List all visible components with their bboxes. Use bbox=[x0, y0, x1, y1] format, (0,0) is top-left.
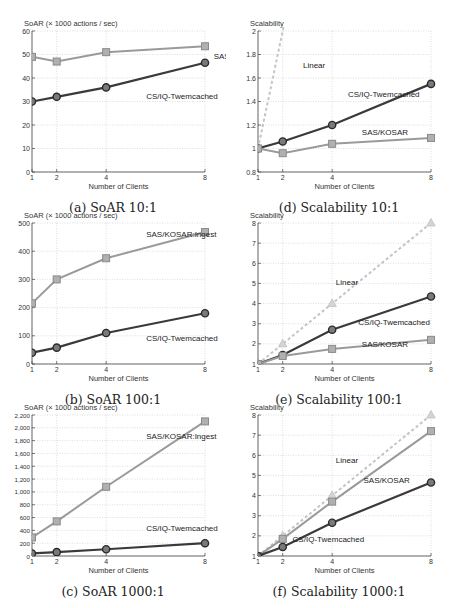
svg-text:400: 400 bbox=[20, 527, 31, 534]
svg-text:4: 4 bbox=[104, 366, 108, 373]
chart-e-scalability-100-1: 123456781248ScalabilityNumber of Clients… bbox=[226, 192, 452, 388]
svg-text:4: 4 bbox=[330, 174, 334, 181]
plot-svg: 01020304050601248SoAR (× 1000 actions / … bbox=[0, 0, 226, 196]
svg-text:1: 1 bbox=[30, 366, 34, 373]
svg-text:1.6: 1.6 bbox=[246, 75, 256, 82]
svg-text:4: 4 bbox=[104, 558, 108, 565]
svg-text:6: 6 bbox=[252, 452, 256, 459]
svg-text:CS/IQ-Twemcached: CS/IQ-Twemcached bbox=[146, 524, 218, 533]
svg-text:SAS/KOSAR:Ingest: SAS/KOSAR:Ingest bbox=[146, 432, 217, 441]
svg-text:8: 8 bbox=[203, 366, 207, 373]
svg-text:2: 2 bbox=[252, 340, 256, 347]
chart-b-soar-100-1: 01002003004005001248SoAR (× 1000 actions… bbox=[0, 192, 226, 388]
svg-text:Number of Clients: Number of Clients bbox=[88, 374, 148, 383]
chart-d-scalability-10-1: 0.811.21.41.61.821248ScalabilityNumber o… bbox=[226, 0, 452, 196]
svg-text:CS/IQ-Twemcached: CS/IQ-Twemcached bbox=[358, 318, 430, 327]
svg-text:8: 8 bbox=[252, 220, 256, 227]
svg-text:200: 200 bbox=[20, 540, 31, 547]
svg-text:20: 20 bbox=[22, 122, 30, 129]
svg-text:3: 3 bbox=[252, 320, 256, 327]
svg-text:Number of Clients: Number of Clients bbox=[314, 182, 374, 191]
svg-text:Linear: Linear bbox=[336, 456, 359, 465]
svg-text:SAS/KOSAR: SAS/KOSAR bbox=[362, 128, 408, 137]
caption-f: (f) Scalability 1000:1 bbox=[226, 584, 452, 599]
svg-text:8: 8 bbox=[203, 174, 207, 181]
svg-text:CS/IQ-Twemcached: CS/IQ-Twemcached bbox=[293, 535, 365, 544]
svg-text:1,400: 1,400 bbox=[15, 463, 31, 470]
svg-text:Linear: Linear bbox=[303, 61, 326, 70]
svg-text:4: 4 bbox=[330, 558, 334, 565]
svg-text:60: 60 bbox=[22, 28, 30, 35]
svg-text:Number of Clients: Number of Clients bbox=[88, 182, 148, 191]
svg-text:500: 500 bbox=[18, 220, 30, 227]
svg-text:10: 10 bbox=[22, 145, 30, 152]
caption-a: (a) SoAR 10:1 bbox=[0, 200, 226, 215]
svg-text:8: 8 bbox=[429, 366, 433, 373]
svg-text:3: 3 bbox=[252, 512, 256, 519]
svg-text:SAS/KOSAR: SAS/KOSAR bbox=[364, 476, 410, 485]
svg-text:800: 800 bbox=[20, 501, 31, 508]
svg-text:8: 8 bbox=[252, 412, 256, 419]
svg-text:8: 8 bbox=[429, 174, 433, 181]
svg-text:SAS/KOSAR:Ingest: SAS/KOSAR:Ingest bbox=[146, 230, 217, 239]
plot-svg: 02004006008001,0001,2001,4001,6001,8002,… bbox=[0, 384, 226, 580]
svg-text:300: 300 bbox=[18, 276, 30, 283]
caption-e: (e) Scalability 100:1 bbox=[226, 392, 452, 407]
svg-text:1: 1 bbox=[256, 174, 260, 181]
svg-text:2: 2 bbox=[281, 558, 285, 565]
caption-b: (b) SoAR 100:1 bbox=[0, 392, 226, 407]
svg-text:1,600: 1,600 bbox=[15, 450, 31, 457]
svg-text:600: 600 bbox=[20, 514, 31, 521]
svg-text:2: 2 bbox=[281, 366, 285, 373]
svg-text:400: 400 bbox=[18, 248, 30, 255]
svg-text:Scalability: Scalability bbox=[250, 19, 284, 28]
svg-text:1,000: 1,000 bbox=[15, 488, 31, 495]
svg-text:7: 7 bbox=[252, 240, 256, 247]
svg-text:Number of Clients: Number of Clients bbox=[314, 566, 374, 575]
svg-text:1.4: 1.4 bbox=[246, 98, 256, 105]
svg-text:Number of Clients: Number of Clients bbox=[88, 566, 148, 575]
svg-text:2: 2 bbox=[55, 558, 59, 565]
svg-text:2,200: 2,200 bbox=[15, 412, 31, 419]
caption-d: (d) Scalability 10:1 bbox=[226, 200, 452, 215]
svg-text:1: 1 bbox=[30, 558, 34, 565]
svg-text:4: 4 bbox=[104, 174, 108, 181]
plot-svg: 123456781248ScalabilityNumber of Clients… bbox=[226, 384, 452, 580]
svg-text:2,000: 2,000 bbox=[15, 424, 31, 431]
svg-text:50: 50 bbox=[22, 51, 30, 58]
svg-text:1: 1 bbox=[252, 145, 256, 152]
svg-text:Number of Clients: Number of Clients bbox=[314, 374, 374, 383]
svg-text:SAS/KOSAR: SAS/KOSAR bbox=[362, 340, 408, 349]
caption-c: (c) SoAR 1000:1 bbox=[0, 584, 226, 599]
svg-text:0.8: 0.8 bbox=[246, 169, 256, 176]
svg-text:1: 1 bbox=[30, 174, 34, 181]
plot-svg: 0.811.21.41.61.821248ScalabilityNumber o… bbox=[226, 0, 452, 196]
svg-text:2: 2 bbox=[281, 174, 285, 181]
svg-text:5: 5 bbox=[252, 472, 256, 479]
svg-text:2: 2 bbox=[55, 174, 59, 181]
svg-text:6: 6 bbox=[252, 260, 256, 267]
svg-text:1,800: 1,800 bbox=[15, 437, 31, 444]
svg-text:2: 2 bbox=[252, 532, 256, 539]
svg-text:1: 1 bbox=[256, 366, 260, 373]
svg-text:100: 100 bbox=[18, 332, 30, 339]
svg-text:8: 8 bbox=[203, 558, 207, 565]
svg-text:4: 4 bbox=[252, 492, 256, 499]
svg-text:2: 2 bbox=[55, 366, 59, 373]
svg-text:SoAR (× 1000 actions / sec): SoAR (× 1000 actions / sec) bbox=[24, 19, 118, 28]
svg-text:1: 1 bbox=[256, 558, 260, 565]
svg-text:CS/IQ-Twemcached: CS/IQ-Twemcached bbox=[146, 92, 218, 101]
svg-text:4: 4 bbox=[330, 366, 334, 373]
svg-text:CS/IQ-Twemcached: CS/IQ-Twemcached bbox=[146, 334, 218, 343]
svg-text:Linear: Linear bbox=[336, 278, 359, 287]
plot-svg: 01002003004005001248SoAR (× 1000 actions… bbox=[0, 192, 226, 388]
chart-c-soar-1000-1: 02004006008001,0001,2001,4001,6001,8002,… bbox=[0, 384, 226, 580]
svg-text:7: 7 bbox=[252, 432, 256, 439]
chart-f-scalability-1000-1: 123456781248ScalabilityNumber of Clients… bbox=[226, 384, 452, 580]
svg-text:4: 4 bbox=[252, 300, 256, 307]
svg-text:SAS/KOSAR:Ingest: SAS/KOSAR:Ingest bbox=[214, 52, 226, 61]
svg-text:2: 2 bbox=[252, 28, 256, 35]
plot-svg: 123456781248ScalabilityNumber of Clients… bbox=[226, 192, 452, 388]
svg-text:200: 200 bbox=[18, 304, 30, 311]
svg-text:40: 40 bbox=[22, 75, 30, 82]
